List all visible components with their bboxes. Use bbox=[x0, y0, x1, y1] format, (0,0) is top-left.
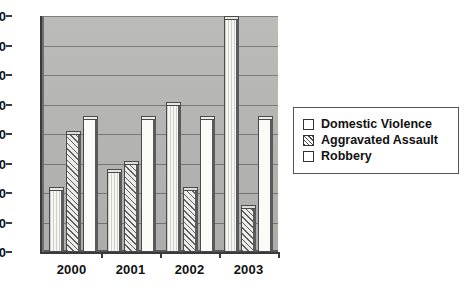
y-axis-tick-mark bbox=[6, 15, 12, 17]
bar-chart: 01020304050607080 2000200120022003 Domes… bbox=[0, 0, 468, 288]
bar-robbery-2002 bbox=[200, 119, 215, 252]
bar-domestic-violence-2001 bbox=[107, 172, 122, 252]
legend-label: Aggravated Assault bbox=[321, 133, 438, 147]
x-axis-labels: 2000200120022003 bbox=[42, 262, 278, 286]
bar-slot bbox=[141, 16, 156, 252]
x-axis-label-2000: 2000 bbox=[42, 262, 101, 286]
bar-groups bbox=[44, 16, 278, 252]
bar-slot bbox=[183, 16, 198, 252]
bar-group-2002 bbox=[161, 16, 220, 252]
bar-slot bbox=[224, 16, 239, 252]
bar-slot bbox=[241, 16, 256, 252]
bar-slot bbox=[258, 16, 273, 252]
y-axis-tick-mark bbox=[6, 133, 12, 135]
bar-aggravated-assault-2003 bbox=[241, 208, 256, 252]
x-axis-label-2002: 2002 bbox=[160, 262, 219, 286]
bar-robbery-2003 bbox=[258, 119, 273, 252]
y-axis-tick-mark bbox=[6, 74, 12, 76]
x-axis-tick-mark bbox=[101, 252, 103, 258]
bar-aggravated-assault-2002 bbox=[183, 190, 198, 252]
bar-domestic-violence-2002 bbox=[166, 105, 181, 253]
legend-item-robbery: Robbery bbox=[303, 149, 450, 163]
y-axis: 01020304050607080 bbox=[0, 0, 42, 268]
legend-item-aggravated-assault: Aggravated Assault bbox=[303, 133, 450, 147]
plot-inner bbox=[44, 16, 278, 252]
y-axis-tick-mark bbox=[6, 163, 12, 165]
legend-item-domestic-violence: Domestic Violence bbox=[303, 117, 450, 131]
bar-slot bbox=[107, 16, 122, 252]
y-axis-tick-mark bbox=[6, 222, 12, 224]
bar-group-2000 bbox=[44, 16, 103, 252]
bar-domestic-violence-2000 bbox=[49, 190, 64, 252]
bar-slot bbox=[49, 16, 64, 252]
bar-group-2001 bbox=[103, 16, 162, 252]
bar-slot bbox=[124, 16, 139, 252]
bar-group-2003 bbox=[220, 16, 279, 252]
legend-label: Robbery bbox=[321, 149, 372, 163]
bar-aggravated-assault-2000 bbox=[66, 134, 81, 252]
y-axis-tick-mark bbox=[6, 104, 12, 106]
x-axis-tick-mark bbox=[278, 252, 280, 258]
legend: Domestic Violence Aggravated Assault Rob… bbox=[293, 107, 459, 174]
x-axis-label-2003: 2003 bbox=[219, 262, 278, 286]
legend-swatch-open-square-icon bbox=[303, 119, 314, 130]
y-axis-tick-mark bbox=[6, 45, 12, 47]
legend-label: Domestic Violence bbox=[321, 117, 432, 131]
x-axis-tick-mark bbox=[160, 252, 162, 258]
bar-slot bbox=[66, 16, 81, 252]
bar-slot bbox=[83, 16, 98, 252]
plot-area bbox=[42, 16, 278, 252]
legend-swatch-open-square-icon bbox=[303, 151, 314, 162]
legend-swatch-hatched-square-icon bbox=[303, 135, 314, 146]
bar-domestic-violence-2003 bbox=[224, 19, 239, 252]
y-axis-tick-mark bbox=[6, 192, 12, 194]
x-axis-tick-mark bbox=[219, 252, 221, 258]
bar-robbery-2001 bbox=[141, 119, 156, 252]
bar-robbery-2000 bbox=[83, 119, 98, 252]
y-axis-tick-mark bbox=[6, 251, 12, 253]
bar-slot bbox=[166, 16, 181, 252]
bar-aggravated-assault-2001 bbox=[124, 164, 139, 253]
x-axis-label-2001: 2001 bbox=[101, 262, 160, 286]
bar-slot bbox=[200, 16, 215, 252]
